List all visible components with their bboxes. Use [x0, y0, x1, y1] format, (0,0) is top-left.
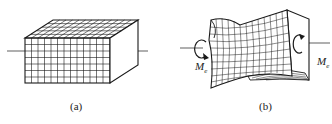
moment-label-right: Me	[317, 55, 329, 70]
moment-label-left: Me	[195, 60, 207, 75]
moment-symbol: M	[195, 60, 204, 72]
moment-subscript: e	[326, 62, 329, 70]
moment-symbol: M	[317, 55, 326, 67]
caption-a: (a)	[70, 100, 82, 112]
moment-subscript: e	[204, 67, 207, 75]
figure-a-box	[7, 20, 148, 83]
caption-b: (b)	[259, 100, 272, 112]
figure-b-twisted-bar	[180, 10, 330, 88]
torsion-diagram	[0, 0, 332, 124]
